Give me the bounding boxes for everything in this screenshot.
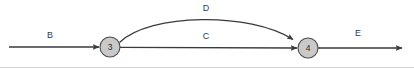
edge-label-b: B [47, 30, 53, 40]
edge-c-line [120, 47, 297, 48]
graph-diagram: 3 4 B C D E [0, 0, 414, 69]
edge-label-d: D [203, 3, 210, 13]
graph-canvas: 3 4 B C D E [0, 0, 414, 69]
edge-label-e: E [355, 28, 361, 38]
edge-label-c: C [203, 31, 210, 41]
node-3-label: 3 [108, 42, 113, 52]
node-4-label: 4 [306, 43, 311, 53]
